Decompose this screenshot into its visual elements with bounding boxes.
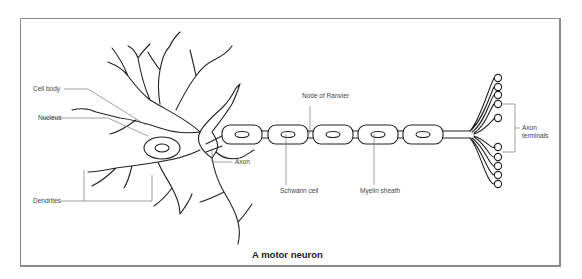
label-schwann-cell: Schwann cell [280, 187, 318, 195]
myelin-segments [222, 125, 470, 144]
label-axon: Axon [235, 158, 250, 166]
label-nucleus: Nucleus [38, 114, 61, 122]
axon-terminals-line1: Axon [522, 124, 537, 131]
axon-terminals [470, 74, 502, 187]
motor-neuron-drawing [0, 0, 582, 279]
cell-body-oval [144, 137, 180, 159]
label-myelin-sheath: Myelin sheath [360, 187, 400, 195]
label-axon-terminals: Axon terminals [522, 124, 548, 140]
label-dendrites: Dendrites [33, 197, 61, 205]
diagram-title: A motor neuron [252, 249, 323, 260]
label-cell-body: Cell body [33, 85, 60, 93]
label-node-of-ranvier: Node of Ranvier [302, 92, 349, 100]
nucleus [155, 144, 169, 152]
axon-terminals-line2: terminals [522, 132, 548, 139]
leader-lines [42, 89, 520, 201]
